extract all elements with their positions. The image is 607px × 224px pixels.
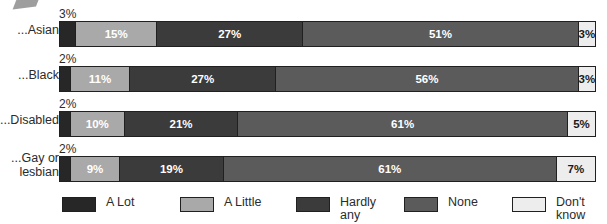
chart-row-black: ...Black 2% 11% 27% 56% 3% (0, 53, 607, 99)
segment-a-lot-asian (60, 22, 76, 46)
outside-value-label-asian: 3% (59, 7, 76, 21)
segment-a-little-disabled: 10% (71, 112, 125, 136)
category-label-gay-or-lesbian: ...Gay or lesbian (0, 152, 59, 179)
legend-swatch-hardly-any (296, 197, 330, 212)
legend-swatch-a-lot (62, 197, 96, 212)
segment-a-little-gay-or-lesbian: 9% (71, 157, 120, 181)
category-label-black: ...Black (0, 69, 59, 83)
bar-asian: 15% 27% 51% 3% (59, 21, 596, 47)
segment-none-asian: 51% (303, 22, 579, 46)
legend-label-a-lot: A Lot (106, 194, 135, 209)
outside-value-label-disabled: 2% (59, 97, 76, 111)
bar-gay-or-lesbian: 9% 19% 61% 7% (59, 156, 596, 182)
segment-dont-know-disabled: 5% (568, 112, 595, 136)
legend-item-a-little: A Little (180, 194, 262, 224)
legend-label-a-little: A Little (224, 194, 262, 209)
segment-a-lot-disabled (60, 112, 71, 136)
stacked-bar-chart: ...Asian 3% 15% 27% 51% 3% ...Black 2% 1… (0, 0, 607, 192)
segment-none-disabled: 61% (238, 112, 568, 136)
segment-dont-know-asian: 3% (579, 22, 595, 46)
chart-row-disabled: ...Disabled 2% 10% 21% 61% 5% (0, 98, 607, 144)
bar-black: 11% 27% 56% 3% (59, 66, 596, 92)
legend-label-none: None (448, 194, 478, 209)
legend-item-dont-know: Don't know (512, 194, 585, 224)
segment-hardly-any-disabled: 21% (125, 112, 238, 136)
category-label-disabled: ...Disabled (0, 114, 59, 128)
outside-value-label-black: 2% (59, 52, 76, 66)
bar-disabled: 10% 21% 61% 5% (59, 111, 596, 137)
segment-none-black: 56% (276, 67, 579, 91)
segment-a-little-asian: 15% (76, 22, 157, 46)
legend-swatch-a-little (180, 197, 214, 212)
segment-hardly-any-black: 27% (130, 67, 276, 91)
segment-hardly-any-gay-or-lesbian: 19% (120, 157, 224, 181)
legend-label-hardly-any: Hardly any (340, 194, 376, 222)
legend-label-dont-know: Don't know (556, 194, 585, 222)
outside-value-label-gay-or-lesbian: 2% (59, 142, 76, 156)
chart-row-asian: ...Asian 3% 15% 27% 51% 3% (0, 8, 607, 54)
segment-a-lot-gay-or-lesbian (60, 157, 71, 181)
category-label-asian: ...Asian (0, 24, 59, 38)
legend-item-none: None (404, 194, 478, 224)
chart-legend: A Lot A Little Hardly any None Don't kno… (0, 194, 607, 224)
legend-swatch-dont-know (512, 197, 546, 212)
legend-item-a-lot: A Lot (62, 194, 135, 224)
segment-a-lot-black (60, 67, 71, 91)
chart-row-gay-or-lesbian: ...Gay or lesbian 2% 9% 19% 61% 7% (0, 143, 607, 189)
segment-a-little-black: 11% (71, 67, 130, 91)
segment-hardly-any-asian: 27% (157, 22, 303, 46)
segment-none-gay-or-lesbian: 61% (224, 157, 557, 181)
segment-dont-know-gay-or-lesbian: 7% (557, 157, 595, 181)
legend-swatch-none (404, 197, 438, 212)
legend-item-hardly-any: Hardly any (296, 194, 376, 224)
segment-dont-know-black: 3% (579, 67, 595, 91)
